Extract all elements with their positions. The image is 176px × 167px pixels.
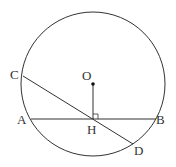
label-b: B bbox=[156, 112, 165, 127]
label-c: C bbox=[10, 67, 19, 82]
label-a: A bbox=[17, 112, 27, 127]
chord-cd bbox=[23, 76, 133, 144]
label-d: D bbox=[134, 143, 143, 158]
center-point-o bbox=[91, 82, 95, 86]
label-h: H bbox=[87, 122, 96, 137]
circle-diagram: O C A H B D bbox=[0, 0, 176, 167]
right-angle-mark bbox=[93, 114, 98, 119]
label-o: O bbox=[82, 68, 91, 83]
